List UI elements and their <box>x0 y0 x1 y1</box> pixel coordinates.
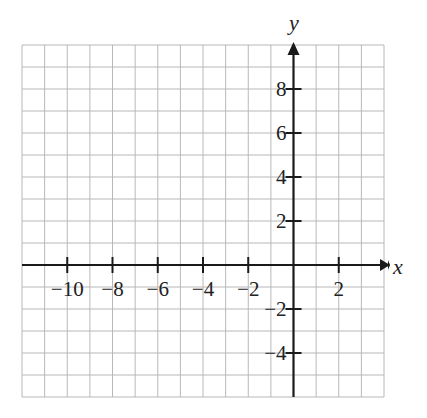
coordinate-grid-chart: −10−8−6−4−228642−2−4 x y <box>0 0 427 418</box>
axes <box>22 42 390 397</box>
grid-lines <box>22 45 384 397</box>
x-axis-arrowhead-icon <box>380 259 390 271</box>
x-tick-label: −2 <box>237 277 259 301</box>
x-axis-label: x <box>392 254 403 279</box>
y-tick-label: 6 <box>276 121 287 145</box>
x-tick-label: −8 <box>101 277 123 301</box>
x-tick-label: 2 <box>334 277 345 301</box>
y-axis-label: y <box>287 10 299 35</box>
y-tick-label: −4 <box>264 341 287 365</box>
x-tick-label: −10 <box>51 277 84 301</box>
y-tick-label: 2 <box>276 209 287 233</box>
y-axis-arrowhead-icon <box>288 42 300 55</box>
y-tick-label: 8 <box>276 77 287 101</box>
x-tick-label: −6 <box>147 277 169 301</box>
y-tick-label: 4 <box>276 165 287 189</box>
x-tick-label: −4 <box>192 277 215 301</box>
y-tick-label: −2 <box>264 297 286 321</box>
